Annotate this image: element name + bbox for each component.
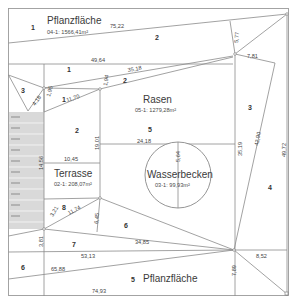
triangle-number: 5 <box>148 126 152 133</box>
triangle-number: 2 <box>155 34 159 41</box>
dimension-label: 1,95 <box>45 85 54 97</box>
triangle-number: 3 <box>248 104 252 111</box>
survey-plan: Pflanzfläche 04-1: 1566,41m² Rasen 05-1:… <box>0 0 297 304</box>
triangle-number: 1 <box>31 24 35 31</box>
dimension-label: 49,72 <box>281 143 287 157</box>
area-name-terrasse: Terrasse <box>54 168 93 179</box>
dimension-label: 19,01 <box>94 136 100 150</box>
dimension-label: 14,56 <box>38 156 44 170</box>
dimension-label: 75,22 <box>110 23 124 29</box>
dimension-label: 35,19 <box>237 142 243 156</box>
dimension-label: 65,88 <box>51 266 65 272</box>
dimension-label: 53,13 <box>81 253 95 259</box>
area-code-rasen: 05-1: 1279,28m² <box>135 107 176 113</box>
area-code-wasserbecken: 03-1: 99,93m² <box>155 182 190 188</box>
dimension-label: 5,77 <box>233 32 240 43</box>
area-code-terrasse: 02-1: 208,07m² <box>54 181 92 187</box>
triangle-number: 5 <box>131 276 135 283</box>
dimension-label: 11,70 <box>65 93 80 103</box>
triangle-number: 1 <box>67 66 71 73</box>
dimension-label: 3,21 <box>49 205 60 217</box>
dimension-label: 42,90 <box>253 131 262 146</box>
dimension-label: 74,93 <box>92 288 106 294</box>
area-name-pflanzflaeche-top: Pflanzfläche <box>47 15 102 26</box>
area-code-pflanzflaeche-top: 04-1: 1566,41m² <box>47 29 88 35</box>
triangle-number: 7 <box>72 241 76 248</box>
dimension-label: 5,64 <box>175 151 181 162</box>
triangle-number: 2 <box>75 127 79 134</box>
triangle-number: 2 <box>123 77 127 84</box>
triangulation-lines <box>9 14 288 296</box>
dimension-label: 11,74 <box>67 204 82 216</box>
triangle-number: 4 <box>268 184 272 191</box>
dimension-label: 8,52 <box>256 253 267 259</box>
dimension-label: 49,64 <box>91 57 105 63</box>
area-name-wasserbecken: Wasserbecken <box>147 169 213 180</box>
dimension-label: 3,81 <box>38 236 44 247</box>
triangle-number: 6 <box>124 222 128 229</box>
property-boundary <box>9 9 289 296</box>
triangle-number: 6 <box>21 264 25 271</box>
dimension-label: 34,85 <box>135 239 149 245</box>
dimension-label: 7,81 <box>247 53 258 59</box>
dimension-label: 24,18 <box>137 138 151 144</box>
dimension-label: 7,89 <box>231 265 237 276</box>
triangle-number: 8 <box>62 204 66 211</box>
dimension-label: 4,18 <box>31 94 42 106</box>
dimension-label: 6,45 <box>93 213 100 224</box>
dimension-label: 1,94 <box>102 74 110 86</box>
triangle-number: 3 <box>21 87 25 94</box>
area-name-pflanzflaeche-bottom: Pflanzfläche <box>143 273 198 284</box>
area-name-rasen: Rasen <box>143 94 172 105</box>
dimension-label: 10,45 <box>64 156 78 162</box>
